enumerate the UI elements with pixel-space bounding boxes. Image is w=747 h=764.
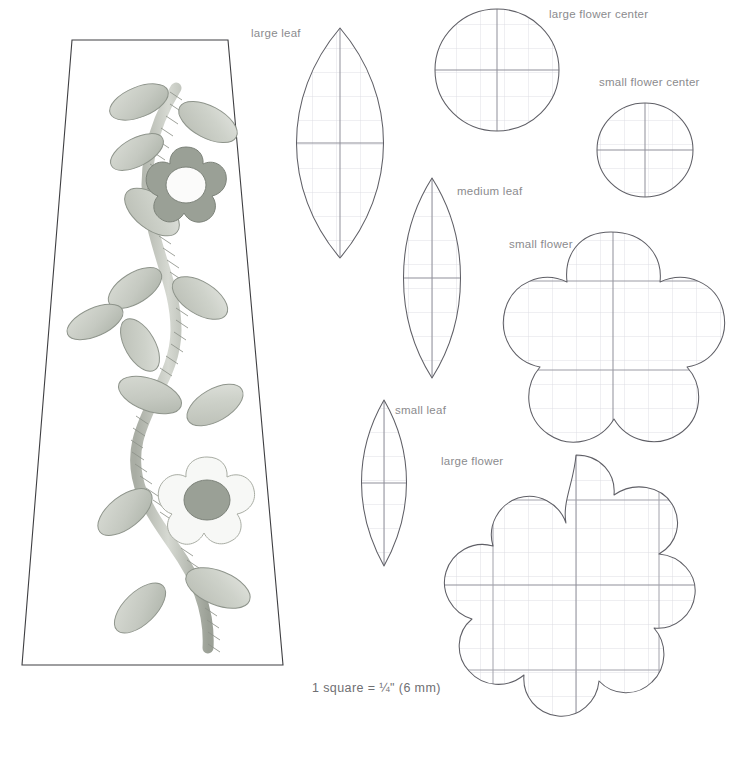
label-small-leaf: small leaf bbox=[395, 404, 446, 416]
applique-panel bbox=[0, 0, 747, 764]
label-small-flower: small flower bbox=[509, 238, 573, 250]
pattern-sheet: large leaf large flower center small flo… bbox=[0, 0, 747, 764]
scale-note-text: 1 square = ¼" (6 mm) bbox=[312, 681, 441, 695]
label-large-leaf: large leaf bbox=[251, 27, 301, 39]
scale-note: 1 square = ¼" (6 mm) bbox=[312, 681, 441, 695]
label-small-flower-center: small flower center bbox=[599, 76, 700, 88]
label-large-flower: large flower bbox=[441, 455, 503, 467]
label-medium-leaf: medium leaf bbox=[457, 185, 522, 197]
label-large-flower-center: large flower center bbox=[549, 8, 648, 20]
